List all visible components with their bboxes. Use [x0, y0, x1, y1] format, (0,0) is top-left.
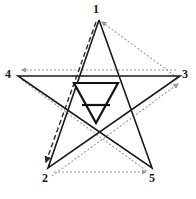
dotted-stroke-5-to-3	[52, 84, 178, 176]
pentagram-figure: 1 2 3 4 5	[0, 0, 196, 199]
vertex-label-3: 3	[182, 68, 188, 80]
vertex-label-4: 4	[5, 68, 11, 80]
pentagram-canvas	[0, 0, 196, 199]
vertex-label-1: 1	[93, 3, 99, 15]
vertex-label-2: 2	[42, 172, 48, 184]
vertex-label-5: 5	[149, 172, 155, 184]
center-symbol-group	[74, 83, 118, 123]
inverted-triangle-icon	[74, 83, 118, 123]
